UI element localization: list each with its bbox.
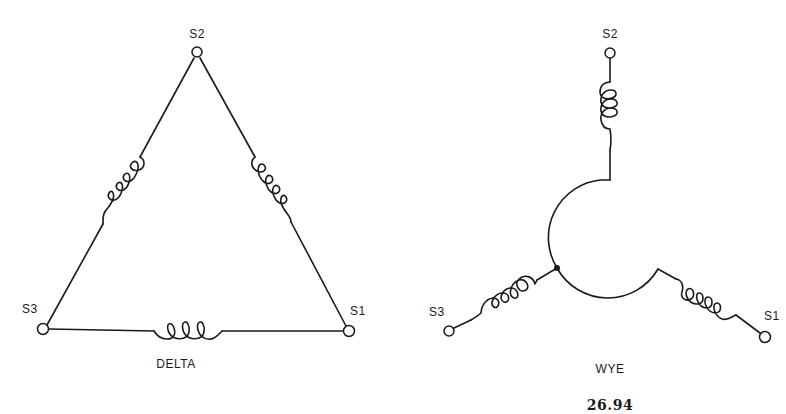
wye-top-winding (600, 58, 617, 180)
wye-terminal-s3[interactable] (444, 326, 454, 336)
delta-right-coil-icon (252, 157, 291, 222)
delta-terminal-s3[interactable] (38, 324, 49, 335)
wye-top-coil-icon (600, 82, 617, 150)
delta-left-coil-icon (103, 157, 144, 224)
wye-label-s1: S1 (764, 309, 780, 323)
wye-label-s3: S3 (429, 305, 445, 319)
delta-right-wire-lower (291, 222, 346, 326)
winding-connections-diagram: S2 S3 S1 DELTA (0, 0, 786, 414)
wye-neutral-arc (548, 180, 658, 298)
delta-bottom-coil-icon (154, 322, 222, 339)
delta-left-wire-lower (47, 224, 103, 325)
delta-bottom-winding (49, 322, 344, 339)
delta-terminal-s1[interactable] (344, 326, 355, 337)
wye-terminal-s2[interactable] (605, 48, 615, 58)
wye-right-wire-upper (658, 269, 676, 279)
delta-right-winding (200, 58, 346, 326)
delta-label-s2: S2 (189, 27, 205, 41)
wye-left-winding (454, 268, 557, 328)
delta-label-s3: S3 (22, 302, 38, 316)
wye-right-winding (658, 269, 760, 333)
wye-label-s2: S2 (602, 27, 618, 41)
delta-bottom-wire-left (49, 329, 154, 331)
wye-terminal-s1[interactable] (760, 332, 771, 343)
delta-right-wire-upper (200, 58, 255, 157)
delta-terminal-s2[interactable] (192, 47, 202, 57)
delta-caption: DELTA (156, 357, 195, 371)
delta-left-winding (47, 58, 194, 325)
wye-left-wire-lower (454, 320, 471, 328)
wye-neutral-junction-dot (554, 265, 560, 271)
wye-caption: WYE (596, 362, 625, 376)
wye-right-coil-icon (676, 279, 736, 320)
delta-diagram: S2 S3 S1 DELTA (22, 27, 366, 371)
figure-number: 26.94 (587, 397, 633, 413)
wye-left-wire-upper (537, 268, 557, 280)
wye-left-coil-icon (471, 276, 537, 320)
delta-left-wire-upper (140, 58, 194, 157)
wye-right-wire-lower (736, 315, 760, 333)
delta-label-s1: S1 (350, 304, 366, 318)
wye-diagram: S2 S3 S1 WYE (429, 27, 780, 376)
